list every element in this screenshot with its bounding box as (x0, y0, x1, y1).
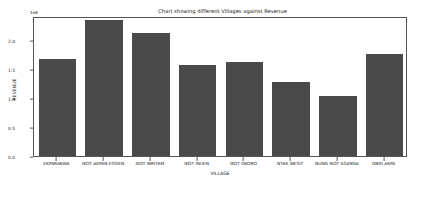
bar (319, 96, 356, 156)
y-axis-offset-label: 1e6 (30, 10, 38, 15)
x-tick-mark (290, 157, 291, 161)
bar (226, 62, 263, 156)
y-tick-label: 0.5 (0, 126, 15, 131)
x-tick-mark (243, 157, 244, 161)
x-tick-label: IKOT INUEN (184, 161, 209, 166)
bar (39, 59, 76, 156)
x-tick-mark (149, 157, 150, 161)
y-tick-label: 1.5 (0, 68, 15, 73)
plot-area (33, 17, 407, 157)
x-tick-label: IKOT IBRITAM (136, 161, 165, 166)
bar (85, 20, 122, 156)
chart-title: Chart showing different Villages against… (35, 8, 410, 14)
matplotlib-figure: Chart showing different Villages against… (0, 0, 425, 202)
bar (272, 82, 309, 156)
x-tick-label: EKPARAKWA (43, 161, 69, 166)
x-tick-label: IKOT OKORO (230, 161, 257, 166)
y-tick-label: 0.0 (0, 155, 15, 160)
x-tick-label: IKOT AKPAN ESSIEN (82, 161, 124, 166)
bars-layer (34, 18, 406, 156)
y-tick-mark (30, 41, 34, 42)
y-tick-mark (30, 70, 34, 71)
x-tick-mark (56, 157, 57, 161)
x-tick-label: NTAK IBESIT (277, 161, 303, 166)
y-tick-label: 2.0 (0, 39, 15, 44)
x-tick-label: OBIO AKPA (372, 161, 395, 166)
x-tick-label: NUNG IKOT ASANGA (315, 161, 359, 166)
bar (366, 54, 403, 156)
x-axis-title: VILLAGE (33, 171, 407, 176)
y-tick-label: 1.0 (0, 97, 15, 102)
x-tick-mark (383, 157, 384, 161)
bar (179, 65, 216, 156)
x-tick-mark (336, 157, 337, 161)
bar (132, 33, 169, 156)
y-tick-mark (30, 99, 34, 100)
x-tick-mark (103, 157, 104, 161)
y-tick-mark (30, 128, 34, 129)
y-tick-mark (30, 157, 34, 158)
x-tick-mark (196, 157, 197, 161)
